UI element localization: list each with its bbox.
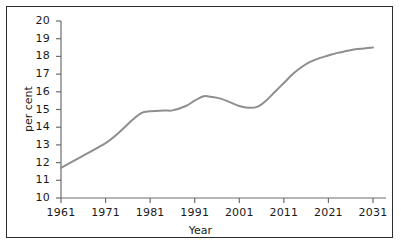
x-tick-label: 1981: [128, 206, 172, 219]
x-tick-label: 1971: [84, 206, 128, 219]
y-axis-title: per cent: [22, 86, 35, 132]
data-line-per-cent: [61, 48, 373, 168]
y-tick-label: 10: [30, 191, 50, 204]
x-axis-ticks: [61, 198, 373, 203]
y-tick-label: 13: [30, 138, 50, 151]
y-axis-ticks: [56, 21, 61, 198]
x-tick-label: 2011: [262, 206, 306, 219]
x-tick-label: 2001: [217, 206, 261, 219]
y-tick-label: 11: [30, 173, 50, 186]
y-tick-label: 18: [30, 49, 50, 62]
x-tick-label: 2031: [351, 206, 395, 219]
y-tick-label: 19: [30, 32, 50, 45]
x-tick-label: 1991: [173, 206, 217, 219]
y-tick-label: 17: [30, 67, 50, 80]
x-tick-label: 2021: [306, 206, 350, 219]
chart-container: 1011121314151617181920 19611971198119912…: [0, 0, 401, 246]
y-tick-label: 20: [30, 14, 50, 27]
x-axis-title: Year: [0, 224, 401, 237]
axis-lines: [61, 21, 386, 198]
y-tick-label: 12: [30, 156, 50, 169]
x-tick-label: 1961: [39, 206, 83, 219]
